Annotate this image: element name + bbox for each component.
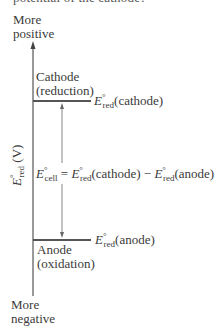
axis-arrowhead-up-icon: [31, 41, 36, 49]
e-symbol: E: [94, 93, 102, 108]
anode-process: (oxidation): [37, 257, 95, 271]
e-symbol: E: [9, 178, 24, 186]
ecell-equation: E°cell = E°red(cathode) − E°red(anode): [36, 166, 214, 182]
minus-sign: −: [141, 166, 155, 181]
red-subscript: red: [80, 173, 92, 183]
cathode-process: (reduction): [36, 84, 94, 98]
arrowhead-up-icon: [60, 103, 64, 109]
red-subscript: red: [163, 173, 175, 183]
more-positive-line2: positive: [13, 27, 54, 41]
cathode-level-label: E°red(cathode): [94, 94, 163, 108]
red-subscript: red: [104, 239, 116, 249]
cathode-arg: (cathode): [91, 166, 140, 181]
unit-volts: (V): [9, 145, 24, 163]
anode-arg: (anode): [115, 232, 155, 247]
more-positive-label: More positive: [13, 13, 54, 41]
equals-sign: =: [58, 166, 72, 181]
cathode-name: Cathode: [36, 70, 94, 84]
arrowhead-down-icon: [60, 232, 64, 238]
more-positive-line1: More: [13, 13, 54, 27]
more-negative-label: More negative: [11, 298, 55, 326]
anode-arg: (anode): [174, 166, 214, 181]
red-subscript: red: [16, 166, 26, 178]
more-negative-line2: negative: [11, 312, 55, 326]
anode-label: Anode (oxidation): [37, 243, 95, 271]
e-symbol: E: [36, 166, 44, 181]
anode-name: Anode: [37, 243, 95, 257]
anode-level-label: E°red(anode): [95, 233, 155, 247]
more-negative-line1: More: [11, 298, 55, 312]
cell-subscript: cell: [45, 173, 58, 183]
potential-diagram-graphics: [0, 0, 215, 328]
cathode-label: Cathode (reduction): [36, 70, 94, 98]
cathode-arg: (cathode): [114, 93, 163, 108]
e-symbol: E: [95, 232, 103, 247]
red-subscript: red: [103, 100, 115, 110]
y-axis-label: E°red (V): [9, 145, 25, 186]
